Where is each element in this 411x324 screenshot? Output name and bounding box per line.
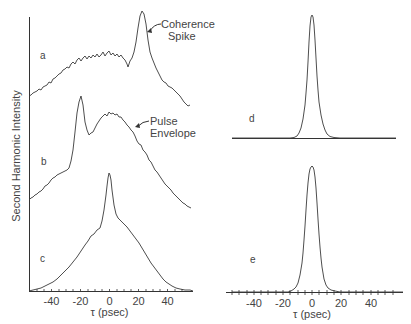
panel-label-e: e [250,254,256,265]
annotation-coherence: Coherence [161,18,215,30]
panel-label-d: d [249,113,255,124]
annotation-spike: Spike [168,30,196,42]
tick-label: 20 [335,297,347,309]
x-axis-label-right: τ (psec) [293,308,331,320]
annotation-envelope: Envelope [150,127,196,139]
right-panel: d e -40 -20 0 20 40 τ (psec) [226,15,403,320]
tick-label: 20 [132,295,144,307]
left-panel: -40 -20 0 20 40 τ (psec) Second Harmonic… [10,11,215,318]
curve-b [29,96,191,208]
tick-label: -40 [44,295,60,307]
x-ticks-left [37,289,182,292]
figure: -40 -20 0 20 40 τ (psec) Second Harmonic… [0,0,411,324]
tick-label: -40 [246,297,262,309]
tick-label: -20 [275,297,291,309]
arrow-head-icon [135,123,140,128]
tick-label: -20 [73,295,89,307]
panel-label-b: b [41,156,47,167]
tick-label: 40 [161,295,173,307]
panel-label-a: a [40,50,46,61]
x-axis-label-left: τ (psec) [91,306,129,318]
curve-d [232,15,396,138]
y-axis-label: Second Harmonic Intensity [10,90,22,222]
panel-label-c: c [40,253,45,264]
curve-e [232,166,403,292]
curve-c [29,173,193,291]
tick-label: 40 [365,297,377,309]
annotation-pulse: Pulse [150,115,178,127]
